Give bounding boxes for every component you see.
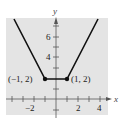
point-left [43, 77, 47, 81]
y-tick-label-4: 4 [46, 52, 51, 62]
graph: y x −2 2 4 4 6 (−1, 2) (1, 2) [0, 0, 121, 124]
x-tick-label-4: 4 [97, 103, 102, 113]
point-label-left: (−1, 2) [8, 74, 33, 84]
y-axis-label: y [52, 6, 57, 16]
x-axis-label: x [113, 94, 118, 104]
x-axis-arrow-icon [106, 97, 112, 101]
x-tick-label-neg2: −2 [25, 103, 35, 113]
point-label-right: (1, 2) [71, 74, 91, 84]
x-tick-label-2: 2 [76, 103, 81, 113]
point-right [65, 77, 69, 81]
y-tick-label-6: 6 [46, 32, 51, 42]
